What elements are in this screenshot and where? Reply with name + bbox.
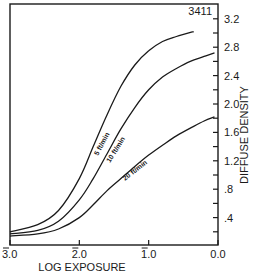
curve-label: 20 ft/min	[121, 159, 148, 182]
x-tick-label: 3.0	[2, 248, 17, 260]
y-axis-title: DIFFUSE DENSITY	[238, 85, 250, 183]
x-axis-title: LOG EXPOSURE	[38, 261, 125, 273]
y-tick-label: 2.0	[224, 98, 239, 110]
y-tick-label: .4	[224, 212, 233, 224]
density-chart: 3.22.82.42.01.61.2.8.4 3.02.01.00.0 5 ft…	[0, 0, 253, 277]
x-tick-label: 1.0	[141, 248, 156, 260]
x-tick-label: 0.0	[210, 248, 225, 260]
figure-id: 3411	[188, 5, 212, 17]
curve-labels: 5 ft/min10 ft/min20 ft/min	[93, 131, 149, 182]
y-tick-label: 2.8	[224, 41, 239, 53]
y-tick-label: 3.2	[224, 13, 239, 25]
y-axis-ticks: 3.22.82.42.01.61.2.8.4	[213, 13, 239, 232]
curve-20-ft-min	[10, 117, 215, 236]
x-tick-label: 2.0	[72, 248, 87, 260]
plot-frame	[10, 4, 218, 245]
y-tick-label: 1.2	[224, 155, 239, 167]
curves	[10, 32, 215, 236]
x-axis-ticks: 3.02.01.00.0	[2, 240, 226, 260]
y-tick-label: 2.4	[224, 70, 239, 82]
curve-5-ft-min	[10, 32, 194, 232]
y-tick-label: .8	[224, 183, 233, 195]
y-tick-label: 1.6	[224, 126, 239, 138]
curve-10-ft-min	[10, 53, 215, 234]
